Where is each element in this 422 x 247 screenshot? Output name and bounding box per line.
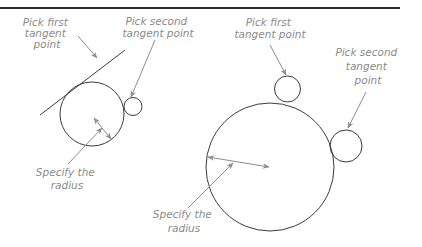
tan-tan-radius-diagram: Pick first tangent point Pick second tan… [0,0,422,247]
left-large-circle [60,82,124,146]
right-radius-leader [188,163,233,208]
left-radius-label: Specify the radius [36,166,98,191]
right-large-circle [206,103,334,231]
left-second-tangent-leader [131,40,155,97]
left-radius-arrow [94,118,111,139]
left-first-tangent-label: Pick first tangent point [23,16,71,50]
right-first-tangent-leader [270,45,286,75]
right-side-small-circle [330,130,362,162]
right-second-tangent-leader [348,92,366,128]
right-example: Pick first tangent point Pick second tan… [153,16,401,234]
left-first-tangent-leader [78,36,97,58]
left-example: Pick first tangent point Pick second tan… [23,15,195,191]
left-second-tangent-label: Pick second tangent point [122,15,194,39]
tangent-line [40,50,125,115]
right-radius-label: Specify the radius [153,208,215,234]
left-small-circle [124,98,142,116]
right-second-tangent-label: Pick second tangent point [335,46,400,86]
right-first-tangent-label: Pick first tangent point [234,16,306,40]
right-radius-arrow [208,157,269,167]
right-top-small-circle [275,76,301,102]
